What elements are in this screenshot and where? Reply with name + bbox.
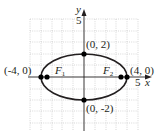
ellipse-diagram: y 5 x 5 (0, 2) (0, -2) (-4, 0) (4, 0) F1… xyxy=(0,0,157,131)
focus-f1-point xyxy=(44,74,49,79)
focus-f2-label: F2 xyxy=(102,64,114,78)
y-axis-arrow-icon xyxy=(82,9,87,16)
focus-f1-label: F1 xyxy=(54,64,66,78)
co-vertex-top-point xyxy=(81,51,86,56)
vertex-left-label: (-4, 0) xyxy=(4,64,32,77)
focus-f2-point xyxy=(118,74,123,79)
y-tick-label: 5 xyxy=(76,14,82,26)
x-axis-label: x xyxy=(144,76,150,88)
vertex-right-label: (4, 0) xyxy=(130,64,154,77)
vertex-right-point xyxy=(124,74,129,79)
co-vertex-top-label: (0, 2) xyxy=(86,38,110,51)
x-tick-label: 5 xyxy=(135,76,141,88)
vertex-left-point xyxy=(38,74,43,79)
co-vertex-bottom-label: (0, -2) xyxy=(86,102,114,115)
